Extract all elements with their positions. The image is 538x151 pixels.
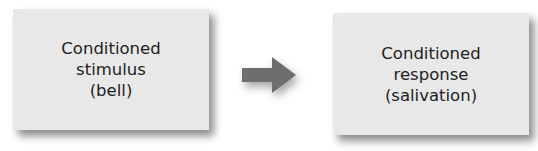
label-line: Conditioned bbox=[61, 38, 160, 59]
label-line: (bell) bbox=[90, 80, 133, 101]
conditioned-stimulus-label: Conditioned stimulus (bell) bbox=[61, 38, 160, 101]
label-line: Conditioned bbox=[381, 43, 480, 64]
right-arrow-icon bbox=[240, 55, 300, 95]
conditioned-response-label: Conditioned response (salivation) bbox=[381, 43, 480, 106]
label-line: (salivation) bbox=[385, 85, 477, 106]
conditioned-response-box: Conditioned response (salivation) bbox=[333, 13, 529, 135]
label-line: response bbox=[394, 64, 469, 85]
conditioned-stimulus-box: Conditioned stimulus (bell) bbox=[13, 9, 209, 130]
label-line: stimulus bbox=[76, 59, 146, 80]
